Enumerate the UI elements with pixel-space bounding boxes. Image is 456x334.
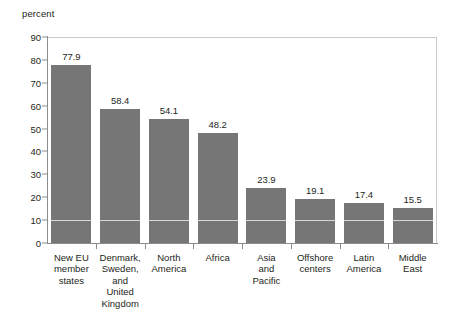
y-axis-tick-mark [42, 105, 47, 106]
x-axis-tick-mark [340, 243, 341, 249]
bar [51, 65, 91, 243]
bar-inner-gridline [149, 220, 189, 221]
bar-inner-gridline [246, 220, 286, 221]
x-axis-tick-mark [388, 243, 389, 249]
bar-inner-gridline [100, 220, 140, 221]
y-axis-tick-label: 30 [30, 169, 41, 180]
x-axis-tick-mark [242, 243, 243, 249]
y-axis-tick-mark [42, 82, 47, 83]
bar-value-label: 17.4 [355, 189, 374, 200]
bar-inner-gridline [393, 220, 433, 221]
y-axis-tick-mark [42, 197, 47, 198]
y-axis-tick-label: 50 [30, 123, 41, 134]
x-axis-category-label: Africa [190, 252, 245, 263]
bar-value-label: 19.1 [306, 185, 325, 196]
bar [393, 208, 433, 243]
y-axis-tick-mark [42, 128, 47, 129]
bar-value-label: 54.1 [160, 105, 179, 116]
bar-value-label: 58.4 [111, 95, 130, 106]
x-axis-tick-mark [96, 243, 97, 249]
y-axis-tick-label: 60 [30, 100, 41, 111]
bar [295, 199, 335, 243]
y-axis-tick-mark [42, 220, 47, 221]
bar [149, 119, 189, 243]
x-axis-category-label: New EU member states [44, 252, 99, 286]
x-axis-category-label: Offshore centers [288, 252, 343, 275]
y-axis-tick-label: 40 [30, 146, 41, 157]
x-axis-category-label: Middle East [385, 252, 440, 275]
y-axis-tick-label: 0 [36, 238, 41, 249]
bar [344, 203, 384, 243]
x-axis-category-label: Latin America [337, 252, 392, 275]
x-axis-category-label: Asia and Pacific [239, 252, 294, 286]
x-axis-category-label: North America [142, 252, 197, 275]
y-axis-tick-mark [42, 59, 47, 60]
bar-value-label: 48.2 [208, 119, 227, 130]
bar-inner-gridline [344, 220, 384, 221]
y-axis-tick-mark [42, 151, 47, 152]
bar-inner-gridline [51, 220, 91, 221]
x-axis-category-label: Denmark, Sweden, and United Kingdom [93, 252, 148, 309]
y-axis-tick-label: 10 [30, 215, 41, 226]
bar [198, 133, 238, 243]
y-axis-unit-label: percent [22, 8, 54, 19]
y-axis-tick-label: 70 [30, 77, 41, 88]
bar-value-label: 15.5 [403, 194, 422, 205]
bar [246, 188, 286, 243]
y-axis-tick-mark [42, 37, 47, 38]
y-axis-line [47, 36, 48, 244]
y-axis-tick-label: 20 [30, 192, 41, 203]
bar-value-label: 77.9 [62, 51, 81, 62]
x-axis-tick-mark [291, 243, 292, 249]
bar-value-label: 23.9 [257, 174, 276, 185]
bar-inner-gridline [295, 220, 335, 221]
y-axis-tick-label: 90 [30, 32, 41, 43]
x-axis-tick-mark [145, 243, 146, 249]
bar [100, 109, 140, 243]
bar-inner-gridline [198, 220, 238, 221]
x-axis-tick-mark [193, 243, 194, 249]
y-axis-tick-mark [42, 174, 47, 175]
bar-chart: percent 0102030405060708090 77.958.454.1… [0, 0, 456, 334]
y-axis-tick-mark [42, 243, 47, 244]
y-axis-tick-label: 80 [30, 54, 41, 65]
